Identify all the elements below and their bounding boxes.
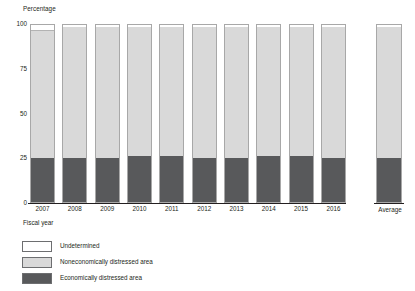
y-axis-ticks: 100 75 50 25 0 xyxy=(0,24,30,203)
bar-group-average xyxy=(376,24,402,203)
segment-economically-distressed[interactable] xyxy=(160,156,183,202)
stacked-bar[interactable] xyxy=(62,24,87,203)
segment-economically-distressed[interactable] xyxy=(63,158,86,202)
bar-slot xyxy=(289,24,314,203)
bar-slot xyxy=(30,24,55,203)
segment-economically-distressed[interactable] xyxy=(257,156,280,202)
legend-item-noneconomically-distressed: Noneconomically distressed area xyxy=(22,255,322,270)
stacked-bar[interactable] xyxy=(376,24,402,203)
light-gray-swatch-icon xyxy=(22,257,52,268)
segment-noneconomically-distressed[interactable] xyxy=(257,27,280,156)
stacked-bar[interactable] xyxy=(256,24,281,203)
stacked-bar[interactable] xyxy=(159,24,184,203)
y-axis-title: Percentage xyxy=(23,5,56,12)
segment-economically-distressed[interactable] xyxy=(322,158,345,202)
stacked-bar[interactable] xyxy=(95,24,120,203)
stacked-bar[interactable] xyxy=(30,24,55,203)
x-tick-label: 2015 xyxy=(289,206,314,218)
segment-economically-distressed[interactable] xyxy=(193,158,216,202)
stacked-bar[interactable] xyxy=(224,24,249,203)
bar-slot xyxy=(321,24,346,203)
stacked-bar[interactable] xyxy=(321,24,346,203)
x-axis-ticks: 2007200820092010201120122013201420152016 xyxy=(30,206,346,218)
x-tick-label-average: Average xyxy=(370,206,410,213)
stacked-bar[interactable] xyxy=(192,24,217,203)
segment-noneconomically-distressed[interactable] xyxy=(322,27,345,158)
segment-noneconomically-distressed[interactable] xyxy=(290,27,313,156)
x-axis-line xyxy=(28,203,346,204)
stacked-bar[interactable] xyxy=(289,24,314,203)
dark-gray-swatch-icon xyxy=(22,273,52,284)
bar-slot xyxy=(376,24,402,203)
legend-label: Economically distressed area xyxy=(60,275,142,281)
x-tick-label: 2013 xyxy=(224,206,249,218)
y-tick-label: 75 xyxy=(20,66,27,72)
legend-item-undetermined: Undetermined xyxy=(22,239,322,254)
segment-noneconomically-distressed[interactable] xyxy=(193,27,216,158)
y-tick-label: 50 xyxy=(20,110,27,116)
segment-economically-distressed[interactable] xyxy=(377,158,401,202)
segment-noneconomically-distressed[interactable] xyxy=(225,27,248,158)
segment-noneconomically-distressed[interactable] xyxy=(96,27,119,158)
legend-label: Noneconomically distressed area xyxy=(60,259,153,265)
bar-slot xyxy=(127,24,152,203)
x-tick-label: 2012 xyxy=(192,206,217,218)
bar-slot xyxy=(95,24,120,203)
segment-economically-distressed[interactable] xyxy=(96,158,119,202)
y-tick-label: 100 xyxy=(16,21,27,27)
x-tick-label: 2010 xyxy=(127,206,152,218)
bar-slot xyxy=(192,24,217,203)
bar-slot xyxy=(256,24,281,203)
bar-slot xyxy=(62,24,87,203)
segment-economically-distressed[interactable] xyxy=(128,156,151,202)
x-axis-line-average xyxy=(374,203,404,204)
segment-economically-distressed[interactable] xyxy=(31,158,54,202)
bar-slot xyxy=(224,24,249,203)
bar-group-years xyxy=(30,24,346,203)
chart-legend: Undetermined Noneconomically distressed … xyxy=(22,239,322,287)
y-tick-label: 25 xyxy=(20,155,27,161)
segment-noneconomically-distressed[interactable] xyxy=(31,30,54,157)
x-tick-label: 2011 xyxy=(159,206,184,218)
x-tick-label: 2009 xyxy=(95,206,120,218)
segment-noneconomically-distressed[interactable] xyxy=(128,27,151,156)
segment-noneconomically-distressed[interactable] xyxy=(160,27,183,156)
bar-slot xyxy=(159,24,184,203)
segment-noneconomically-distressed[interactable] xyxy=(63,27,86,158)
legend-label: Undetermined xyxy=(60,243,100,249)
stacked-bar-chart: Percentage 100 75 50 25 0 20072008200920… xyxy=(0,0,415,291)
stacked-bar[interactable] xyxy=(127,24,152,203)
x-tick-label: 2007 xyxy=(30,206,55,218)
x-axis-title: Fiscal year xyxy=(23,219,53,226)
segment-economically-distressed[interactable] xyxy=(225,158,248,202)
x-tick-label: 2008 xyxy=(62,206,87,218)
y-tick-label: 0 xyxy=(23,200,27,206)
x-tick-label: 2014 xyxy=(256,206,281,218)
x-tick-label: 2016 xyxy=(321,206,346,218)
segment-economically-distressed[interactable] xyxy=(290,156,313,202)
segment-noneconomically-distressed[interactable] xyxy=(377,27,401,158)
legend-item-economically-distressed: Economically distressed area xyxy=(22,271,322,286)
white-swatch-icon xyxy=(22,241,52,252)
